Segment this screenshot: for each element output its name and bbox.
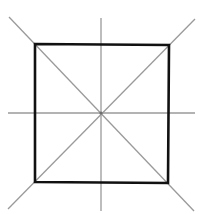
square-symmetry-diagram bbox=[0, 0, 199, 214]
center-point bbox=[99, 111, 102, 114]
